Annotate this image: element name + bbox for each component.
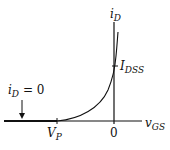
vp-label: VP xyxy=(47,126,63,142)
x-axis-label: vGS xyxy=(145,116,165,132)
y-axis-label: iD xyxy=(110,7,121,23)
transfer-curve xyxy=(57,32,118,121)
arrow-head-icon xyxy=(19,113,25,119)
zero-current-annotation: iD = 0 xyxy=(8,83,44,99)
jfet-transfer-diagram: iD IDSS vGS VP 0 iD = 0 xyxy=(0,0,170,150)
idss-label: IDSS xyxy=(119,59,144,75)
origin-label: 0 xyxy=(110,126,118,140)
